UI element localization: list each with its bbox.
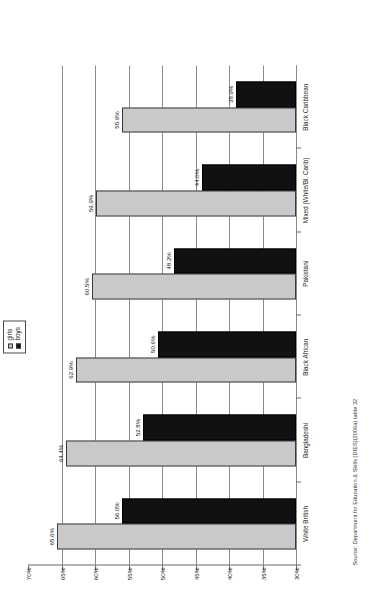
value-axis-tick-label: 40% — [226, 567, 233, 580]
bar-value-label: 60.5% — [83, 278, 90, 295]
category-axis-tick — [296, 314, 301, 315]
value-axis-tick-label: 60% — [92, 567, 99, 580]
rotated-figure-wrapper: 70%65%60%55%50%45%40%35%30%White British… — [0, 0, 368, 611]
bar-girls — [96, 190, 296, 216]
bar-value-label: 55.9% — [113, 111, 120, 128]
bar-girls — [57, 523, 296, 549]
bar-value-label: 48.2% — [165, 252, 172, 269]
category-label: Pakistani — [302, 260, 309, 286]
bar-value-label: 64.4% — [57, 444, 64, 461]
gridline — [229, 65, 230, 565]
bar-girls — [122, 107, 296, 133]
bar-girls — [66, 440, 296, 466]
bar-girls — [92, 273, 296, 299]
value-axis-tick-label: 65% — [58, 567, 65, 580]
bar-value-label: 59.9% — [87, 194, 94, 211]
gridline — [129, 65, 130, 565]
gridline — [263, 65, 264, 565]
gridline — [196, 65, 197, 565]
category-axis-tick — [296, 231, 301, 232]
bar-chart-figure: 70%65%60%55%50%45%40%35%30%White British… — [0, 0, 368, 611]
bar-boys — [158, 331, 296, 357]
category-label: Black Caribbean — [302, 83, 309, 130]
bar-value-label: 65.6% — [48, 528, 55, 545]
bar-value-label: 52.8% — [134, 418, 141, 435]
gridline — [162, 65, 163, 565]
category-axis-tick — [296, 564, 301, 565]
legend-swatch-girls-icon — [8, 343, 13, 348]
bar-boys — [202, 164, 296, 190]
value-axis-tick-label: 50% — [159, 567, 166, 580]
legend-item-girls: girls — [7, 327, 13, 349]
screenshot-canvas: 70%65%60%55%50%45%40%35%30%White British… — [0, 0, 368, 611]
plot-area: 70%65%60%55%50%45%40%35%30%White British… — [28, 65, 296, 565]
category-label: Black African — [302, 338, 309, 375]
value-axis-tick-label: 30% — [293, 567, 300, 580]
gridline — [62, 65, 63, 565]
legend-label-boys: boys — [15, 327, 21, 341]
bar-value-label: 62.9% — [67, 361, 74, 378]
category-axis-tick — [296, 481, 301, 482]
bar-girls — [76, 357, 296, 383]
gridline — [95, 65, 96, 565]
legend-label-girls: girls — [7, 328, 13, 340]
source-note: Source: Department for Education & Skill… — [352, 398, 358, 565]
bar-value-label: 38.9% — [227, 85, 234, 102]
legend-swatch-boys-icon — [16, 343, 21, 348]
category-axis-tick — [296, 397, 301, 398]
bar-value-label: 56.0% — [113, 502, 120, 519]
category-label: Mixed (White/Bl. Carib) — [302, 157, 309, 223]
chart-legend: girls boys — [3, 321, 26, 354]
value-axis-tick-label: 55% — [125, 567, 132, 580]
bar-boys — [122, 498, 296, 524]
legend-item-boys: boys — [15, 327, 21, 349]
bar-boys — [236, 81, 296, 107]
value-axis-tick-label: 70% — [25, 567, 32, 580]
value-axis-tick-label: 35% — [259, 567, 266, 580]
bar-boys — [174, 248, 296, 274]
category-label: Bangladeshi — [302, 422, 309, 457]
category-label: White British — [302, 505, 309, 541]
bar-value-label: 50.6% — [149, 335, 156, 352]
bar-value-label: 44.0% — [193, 168, 200, 185]
bar-boys — [143, 414, 296, 440]
category-axis-tick — [296, 147, 301, 148]
value-axis-tick-label: 45% — [192, 567, 199, 580]
